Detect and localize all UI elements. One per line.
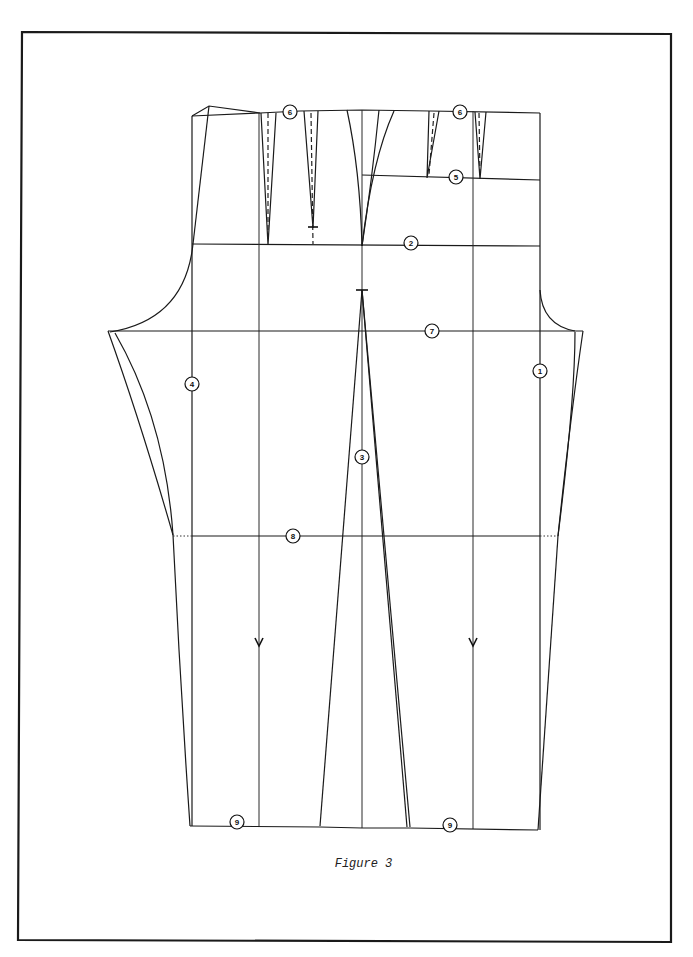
svg-text:6: 6 bbox=[458, 108, 463, 117]
marker-3: 3 bbox=[355, 450, 369, 464]
marker-1: 1 bbox=[533, 364, 547, 378]
marker-2: 2 bbox=[404, 236, 418, 250]
figure-caption: Figure 3 bbox=[335, 857, 393, 871]
hip-line bbox=[192, 244, 540, 246]
back-inseam-outer bbox=[108, 331, 173, 535]
back-dart-2 bbox=[304, 111, 318, 228]
front-inseam-inner bbox=[558, 332, 575, 536]
svg-text:9: 9 bbox=[235, 818, 240, 827]
marker-9b: 9 bbox=[443, 818, 457, 832]
marker-4: 4 bbox=[185, 377, 199, 391]
marker-6a: 6 bbox=[283, 105, 297, 119]
svg-text:6: 6 bbox=[288, 108, 293, 117]
svg-text:5: 5 bbox=[454, 173, 459, 182]
svg-text:4: 4 bbox=[190, 380, 195, 389]
marker-7: 7 bbox=[425, 324, 439, 338]
front-crotch-curve bbox=[540, 290, 575, 331]
center-leg-left bbox=[320, 290, 362, 826]
pattern-drawing: 1 2 3 4 5 6 6 7 bbox=[0, 0, 693, 957]
svg-text:2: 2 bbox=[409, 239, 414, 248]
back-center-curve bbox=[347, 110, 362, 246]
marker-5: 5 bbox=[449, 170, 463, 184]
front-center-curve-2 bbox=[362, 111, 394, 246]
svg-text:7: 7 bbox=[430, 327, 435, 336]
svg-text:9: 9 bbox=[448, 821, 453, 830]
back-inseam-lower bbox=[173, 535, 190, 826]
svg-text:1: 1 bbox=[538, 367, 543, 376]
marker-9a: 9 bbox=[230, 815, 244, 829]
front-inseam-lower bbox=[538, 536, 558, 830]
marker-8: 8 bbox=[286, 529, 300, 543]
figure-caption-container: Figure 3 bbox=[0, 857, 693, 871]
back-crotch-curve bbox=[110, 244, 193, 332]
back-side-seam-top bbox=[193, 106, 209, 244]
svg-text:3: 3 bbox=[360, 453, 365, 462]
marker-6b: 6 bbox=[453, 105, 467, 119]
page-frame bbox=[18, 32, 671, 942]
svg-text:8: 8 bbox=[291, 532, 296, 541]
front-dart-2 bbox=[475, 112, 486, 179]
pattern-page: 1 2 3 4 5 6 6 7 bbox=[0, 0, 693, 957]
center-leg-right-2 bbox=[362, 290, 410, 827]
